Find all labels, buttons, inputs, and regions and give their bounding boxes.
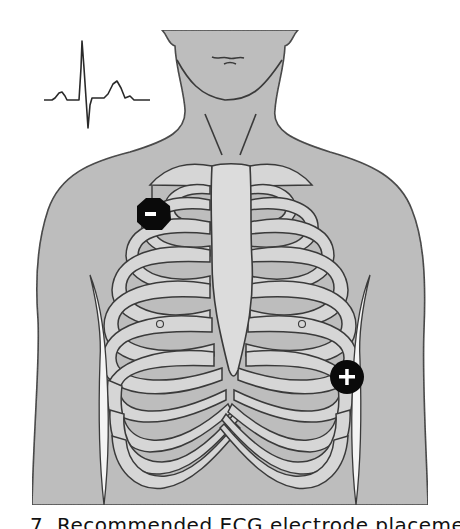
positive-electrode [330,360,364,394]
ecg-electrode-figure: 7. Recommended ECG electrode placement [0,0,460,529]
ecg-waveform [44,41,150,128]
minus-symbol [145,212,156,216]
chest-illustration [0,0,460,529]
plus-symbol-v [345,369,349,385]
figure-caption: 7. Recommended ECG electrode placement [0,510,460,529]
